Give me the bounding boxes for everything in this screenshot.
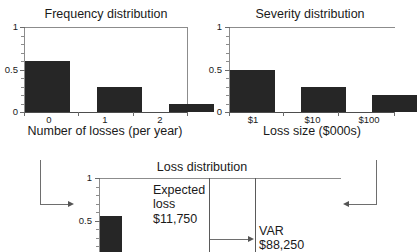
- expected-loss-label-line1: Expected: [153, 183, 205, 198]
- loss-ytick-07: [96, 204, 100, 205]
- severity-ytick-06: [226, 61, 230, 62]
- frequency-x-axis-title: Number of losses (per year): [5, 125, 205, 138]
- loss-ytick-06: [96, 212, 100, 213]
- frequency-ytick-07: [21, 53, 25, 54]
- severity-x-axis-title: Loss size ($000s): [222, 125, 402, 138]
- severity-ytick-09: [226, 36, 230, 37]
- frequency-bar-0: [25, 61, 70, 112]
- frequency-chart-title: Frequency distribution: [26, 8, 186, 21]
- var-label: VAR: [259, 224, 284, 239]
- frequency-xtick-mid1: [78, 112, 79, 116]
- frequency-bar-1: [97, 87, 142, 113]
- severity-ytick-label-0: 0: [204, 107, 222, 117]
- loss-ytick-1: [95, 178, 100, 179]
- expected-loss-value: $11,750: [153, 212, 197, 227]
- frequency-distribution-chart: Frequency distribution 1 0.5 0 0 1: [0, 0, 200, 132]
- frequency-ytick-label-1: 1: [0, 22, 18, 32]
- expected-loss-to-var-arrowhead: [248, 236, 254, 242]
- severity-ytick-1: [225, 27, 230, 28]
- loss-ytick-label-05: 0.5: [68, 216, 92, 226]
- loss-chart-title: Loss distribution: [132, 161, 272, 174]
- severity-ytick-label-05: 0.5: [204, 65, 222, 75]
- loss-ytick-08: [96, 195, 100, 196]
- expected-loss-label-line2: loss: [153, 197, 175, 212]
- frequency-ytick-label-0: 0: [0, 107, 18, 117]
- frequency-xtick-left: [24, 112, 25, 116]
- severity-xtick-left: [229, 112, 230, 116]
- severity-bar-10k: [301, 87, 346, 113]
- loss-ytick-09: [96, 187, 100, 188]
- var-value: $88,250: [259, 238, 304, 252]
- severity-distribution-chart: Severity distribution 1 0.5 0 $1 $10 $10…: [218, 0, 395, 132]
- severity-ytick-07: [226, 53, 230, 54]
- frequency-ytick-label-05: 0.5: [0, 65, 18, 75]
- severity-xtick-mid2: [338, 112, 339, 116]
- loss-bar-0: [100, 216, 122, 252]
- severity-ytick-08: [226, 44, 230, 45]
- frequency-xtick-right: [187, 112, 188, 116]
- frequency-ytick-09: [21, 36, 25, 37]
- expected-loss-marker-line: [209, 178, 210, 252]
- frequency-ytick-08: [21, 44, 25, 45]
- severity-bar-100k: [372, 95, 417, 112]
- var-marker-line: [255, 178, 256, 252]
- severity-xtick-right: [394, 112, 395, 116]
- expected-loss-to-var-arrow-line: [210, 239, 249, 240]
- loss-plot-frame: [99, 178, 341, 252]
- frequency-ytick-1: [20, 27, 25, 28]
- severity-xtick-mid1: [283, 112, 284, 116]
- severity-chart-title: Severity distribution: [230, 8, 390, 21]
- severity-bar-1k: [230, 70, 275, 113]
- frequency-xtick-mid2: [133, 112, 134, 116]
- loss-distribution-chart: Loss distribution 1 0.5 Expected loss $1…: [0, 160, 395, 252]
- loss-ytick-label-1: 1: [76, 173, 92, 183]
- severity-ytick-label-1: 1: [204, 22, 222, 32]
